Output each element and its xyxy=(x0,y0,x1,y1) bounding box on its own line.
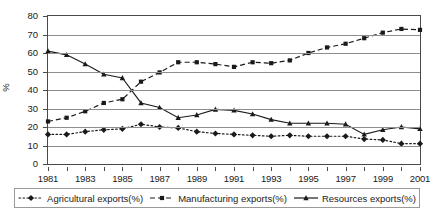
gridline xyxy=(48,127,420,128)
data-point-marker xyxy=(269,61,273,65)
gridline xyxy=(48,35,420,36)
y-axis-tick-label: 70 xyxy=(27,30,38,40)
line-chart: % 01020304050607080 19811983198519871989… xyxy=(0,0,434,215)
legend-diamond-marker-icon xyxy=(18,193,44,203)
x-axis-tick-mark xyxy=(215,167,216,171)
data-point-marker xyxy=(232,65,236,69)
x-axis-tick-mark xyxy=(67,167,68,171)
legend-label: Agricultural exports(%) xyxy=(47,193,143,204)
x-axis-tick-mark xyxy=(253,167,254,171)
y-axis-tick-label: 40 xyxy=(27,85,38,95)
data-point-marker xyxy=(46,119,50,123)
series-line xyxy=(48,51,420,134)
legend-item[interactable]: Manufacturing exports(%) xyxy=(149,193,287,204)
data-point-marker xyxy=(324,133,330,139)
gridline xyxy=(48,109,420,110)
data-point-marker xyxy=(362,36,366,40)
data-point-marker xyxy=(251,60,255,64)
x-axis-tick-label: 1993 xyxy=(261,174,281,184)
x-axis-tick-mark xyxy=(346,167,347,171)
chart-legend: Agricultural exports(%)Manufacturing exp… xyxy=(14,188,420,208)
data-point-marker xyxy=(102,101,106,105)
data-point-marker xyxy=(361,136,367,142)
x-axis-tick-mark xyxy=(290,167,291,171)
data-point-marker xyxy=(325,45,329,49)
x-axis-tick-label: 1981 xyxy=(38,174,58,184)
gridline xyxy=(48,72,420,73)
plot-area xyxy=(47,15,421,165)
y-axis-tick-label: 0 xyxy=(33,159,38,169)
legend-item[interactable]: Agricultural exports(%) xyxy=(18,193,143,204)
x-axis-tick-mark xyxy=(234,167,235,171)
data-point-marker xyxy=(195,60,199,64)
legend-label: Resources exports(%) xyxy=(322,193,416,204)
data-point-marker xyxy=(380,137,386,143)
y-axis-tick-label: 80 xyxy=(27,11,38,21)
data-point-marker xyxy=(418,28,422,32)
legend-label: Manufacturing exports(%) xyxy=(178,193,287,204)
data-point-marker xyxy=(120,97,124,101)
data-point-marker xyxy=(176,60,180,64)
x-axis-tick-label: 1989 xyxy=(187,174,207,184)
x-axis-tick-mark xyxy=(85,167,86,171)
data-point-marker xyxy=(287,132,293,138)
x-axis-tick-label: 1983 xyxy=(75,174,95,184)
x-axis-tick-mark xyxy=(383,167,384,171)
legend-triangle-marker-icon xyxy=(293,193,319,203)
y-axis-tick-label: 30 xyxy=(27,104,38,114)
data-point-marker xyxy=(344,42,348,46)
x-axis-tick-mark xyxy=(364,167,365,171)
x-axis-tick-label: 1991 xyxy=(224,174,244,184)
legend-square-marker-icon xyxy=(149,193,175,203)
data-point-marker xyxy=(268,133,274,139)
y-axis-tick-label: 50 xyxy=(27,67,38,77)
data-point-marker xyxy=(65,116,69,120)
y-axis-tick-label: 20 xyxy=(27,122,38,132)
x-axis-tick-label: 2001 xyxy=(410,174,430,184)
x-axis-tick-label: 1997 xyxy=(335,174,355,184)
x-axis-tick-mark xyxy=(104,167,105,171)
y-axis-tick-label: 60 xyxy=(27,48,38,58)
data-point-marker xyxy=(82,129,88,135)
x-axis-tick-label: 1987 xyxy=(149,174,169,184)
x-axis-tick-mark xyxy=(160,167,161,171)
x-axis: 1981198319851987198919911993199519971999… xyxy=(47,167,421,185)
data-point-marker xyxy=(83,109,87,113)
x-axis-tick-label: 1999 xyxy=(373,174,393,184)
x-axis-tick-mark xyxy=(327,167,328,171)
gridline xyxy=(48,146,420,147)
x-axis-tick-mark xyxy=(48,167,49,171)
x-axis-tick-mark xyxy=(141,167,142,171)
x-axis-tick-mark xyxy=(197,167,198,171)
data-point-marker xyxy=(305,133,311,139)
data-point-marker xyxy=(399,27,403,31)
data-point-marker xyxy=(213,62,217,66)
x-axis-tick-mark xyxy=(308,167,309,171)
y-axis-tick-label: 10 xyxy=(27,141,38,151)
data-point-marker xyxy=(212,130,218,136)
y-axis: 01020304050607080 xyxy=(0,0,47,180)
data-point-marker xyxy=(64,131,70,137)
data-point-marker xyxy=(288,58,292,62)
legend-item[interactable]: Resources exports(%) xyxy=(293,193,416,204)
gridline xyxy=(48,90,420,91)
data-point-marker xyxy=(28,195,34,201)
x-axis-tick-mark xyxy=(178,167,179,171)
data-point-marker xyxy=(194,129,200,135)
x-axis-tick-label: 1995 xyxy=(298,174,318,184)
x-axis-tick-mark xyxy=(420,167,421,171)
series-2 xyxy=(45,48,422,136)
data-point-marker xyxy=(231,131,237,137)
data-point-marker xyxy=(250,132,256,138)
data-point-marker xyxy=(139,80,143,84)
x-axis-tick-mark xyxy=(122,167,123,171)
data-point-marker xyxy=(343,133,349,139)
x-axis-tick-mark xyxy=(401,167,402,171)
x-axis-tick-label: 1985 xyxy=(112,174,132,184)
data-point-marker xyxy=(160,196,164,200)
x-axis-tick-mark xyxy=(271,167,272,171)
gridline xyxy=(48,53,420,54)
